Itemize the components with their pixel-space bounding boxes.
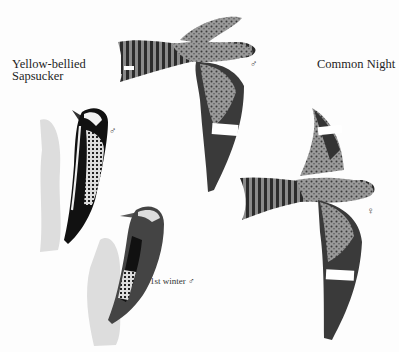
nighthawk-female-figure [240, 108, 375, 340]
nighthawk-male-figure [118, 17, 256, 192]
female-symbol-nighthawk: ♀ [367, 205, 375, 216]
species-label-nighthawk: Common Night [317, 58, 395, 70]
tree-trunk-upper [40, 119, 61, 252]
sapsucker-male-figure [64, 108, 108, 244]
tree-trunk-lower [87, 238, 120, 346]
illustrations [0, 0, 399, 352]
field-guide-plate: Yellow-bellied Sapsucker Common Night ♂ … [0, 0, 399, 352]
caption-1st-winter-male: 1st winter ♂ [150, 276, 195, 286]
species-label-sapsucker-line2: Sapsucker [12, 70, 63, 82]
male-symbol-sapsucker: ♂ [109, 125, 117, 136]
male-symbol-nighthawk: ♂ [250, 58, 258, 69]
